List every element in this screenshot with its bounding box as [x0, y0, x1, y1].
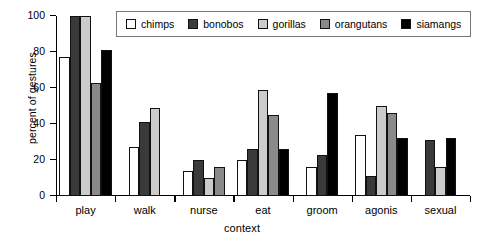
bar-agonis-bonobos: [366, 176, 377, 196]
bar-sexual-siamangs: [446, 138, 457, 196]
bar-play-orangutans: [91, 83, 102, 196]
bar-walk-chimps: [129, 147, 140, 196]
category-label-sexual: sexual: [425, 204, 457, 216]
bar-groom-bonobos: [317, 155, 328, 196]
legend-label-orangutans: orangutans: [335, 18, 388, 30]
legend-label-siamangs: siamangs: [416, 18, 461, 30]
y-tick: 100: [50, 15, 56, 16]
legend-swatch-orangutans: [320, 19, 330, 29]
bar-agonis-chimps: [355, 135, 366, 196]
bar-sexual-gorillas: [435, 167, 446, 196]
legend-swatch-bonobos: [188, 19, 198, 29]
bar-sexual-bonobos: [425, 140, 436, 196]
x-tick: [56, 196, 57, 202]
bar-eat-bonobos: [247, 149, 258, 196]
bar-play-gorillas: [80, 16, 91, 196]
category-label-walk: walk: [134, 204, 156, 216]
x-tick: [174, 196, 175, 202]
x-tick: [470, 196, 471, 202]
y-tick-label: 0: [39, 189, 45, 201]
bar-eat-gorillas: [258, 90, 269, 196]
category-label-agonis: agonis: [365, 204, 397, 216]
chart-legend: chimpsbonobosgorillasorangutanssiamangs: [116, 11, 471, 37]
bar-agonis-siamangs: [397, 138, 408, 196]
y-tick: 20: [50, 159, 56, 160]
legend-entry-bonobos: bonobos: [188, 18, 243, 30]
legend-swatch-siamangs: [401, 19, 411, 29]
bar-groom-siamangs: [327, 93, 338, 196]
bars-layer: [56, 16, 470, 196]
chart-figure: percent of gestures 020406080100 playwal…: [0, 0, 484, 246]
legend-label-chimps: chimps: [141, 18, 174, 30]
y-tick: 40: [50, 123, 56, 124]
bar-agonis-gorillas: [376, 106, 387, 196]
legend-entry-siamangs: siamangs: [401, 18, 461, 30]
category-label-eat: eat: [255, 204, 270, 216]
legend-label-bonobos: bonobos: [203, 18, 243, 30]
bar-groom-chimps: [306, 167, 317, 196]
bar-walk-bonobos: [139, 122, 150, 196]
y-tick-label: 20: [33, 153, 45, 165]
bar-play-siamangs: [101, 50, 112, 196]
category-label-play: play: [75, 204, 95, 216]
bar-walk-gorillas: [150, 108, 161, 196]
bar-agonis-orangutans: [387, 113, 398, 196]
legend-entry-chimps: chimps: [126, 18, 174, 30]
y-tick: 80: [50, 51, 56, 52]
bar-play-bonobos: [70, 16, 81, 196]
legend-entry-gorillas: gorillas: [258, 18, 306, 30]
category-label-nurse: nurse: [190, 204, 218, 216]
y-tick-label: 40: [33, 117, 45, 129]
x-tick: [233, 196, 234, 202]
legend-entry-orangutans: orangutans: [320, 18, 388, 30]
x-tick: [411, 196, 412, 202]
legend-swatch-chimps: [126, 19, 136, 29]
x-tick: [352, 196, 353, 202]
x-axis-title: context: [0, 222, 484, 234]
y-tick: 60: [50, 87, 56, 88]
bar-eat-orangutans: [268, 115, 279, 196]
y-tick-label: 100: [27, 9, 45, 21]
bar-nurse-bonobos: [193, 160, 204, 196]
y-tick-label: 80: [33, 45, 45, 57]
bar-nurse-chimps: [183, 171, 194, 196]
legend-swatch-gorillas: [258, 19, 268, 29]
bar-play-chimps: [59, 57, 70, 196]
legend-label-gorillas: gorillas: [273, 18, 306, 30]
bar-eat-chimps: [237, 160, 248, 196]
category-label-groom: groom: [307, 204, 338, 216]
y-tick-label: 60: [33, 81, 45, 93]
x-tick: [293, 196, 294, 202]
bar-nurse-gorillas: [204, 178, 215, 196]
x-tick: [115, 196, 116, 202]
plot-area: 020406080100: [56, 16, 470, 196]
bar-nurse-orangutans: [214, 167, 225, 196]
bar-eat-siamangs: [279, 149, 290, 196]
